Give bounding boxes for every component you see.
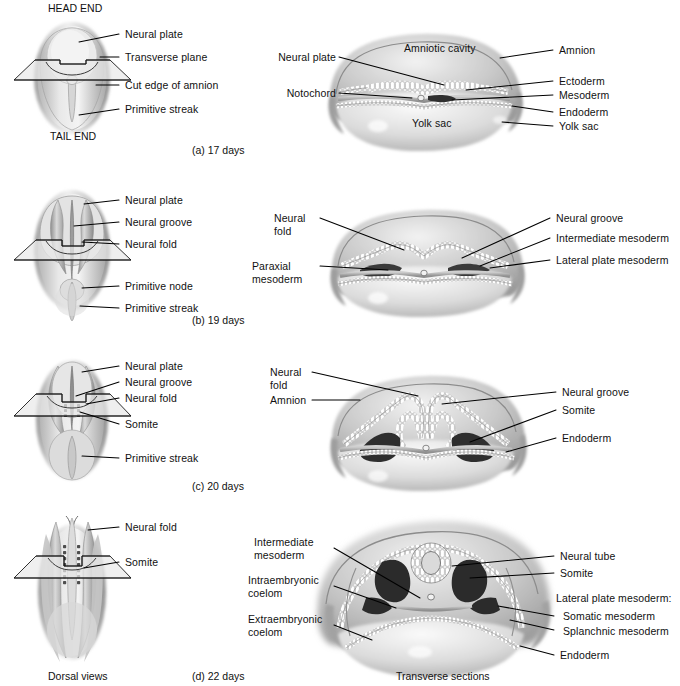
label-d-extraembryonic-coelom: Extraembryonic coelom: [248, 613, 322, 638]
label-d-somatic-mesoderm: Somatic mesoderm: [563, 610, 655, 623]
label-c-section-amnion: Amnion: [270, 394, 306, 407]
embryology-figure: HEAD END TAIL END Neural plate Transvers…: [0, 0, 680, 686]
label-b-neural-plate: Neural plate: [125, 194, 183, 207]
label-a-yolk-sac-inner: Yolk sac: [412, 117, 452, 130]
label-a-yolk-sac-right: Yolk sac: [559, 120, 599, 133]
label-c-somite: Somite: [125, 418, 158, 431]
panel-c-dorsal-view: [14, 360, 131, 480]
figure-artwork: [0, 0, 680, 686]
label-b-neural-fold: Neural fold: [125, 238, 177, 251]
tail-end-label: TAIL END: [50, 130, 96, 143]
column-caption-dorsal-views: Dorsal views: [48, 670, 108, 683]
label-c-neural-groove: Neural groove: [125, 376, 192, 389]
label-b-lateral-plate-mesoderm: Lateral plate mesoderm: [556, 254, 669, 267]
label-d-intraembryonic-coelom: Intraembryonic coelom: [248, 574, 319, 599]
label-d-endoderm: Endoderm: [560, 649, 609, 662]
label-a-section-notochord: Notochord: [216, 87, 336, 100]
label-a-endoderm: Endoderm: [559, 106, 608, 119]
label-c-endoderm: Endoderm: [562, 432, 611, 445]
label-b-section-paraxial-mesoderm: Paraxial mesoderm: [252, 260, 302, 285]
label-d-intermediate-mesoderm: Intermediate mesoderm: [254, 536, 314, 561]
panel-c-transverse-section: [331, 376, 527, 491]
head-end-label: HEAD END: [48, 2, 102, 15]
panel-d-dorsal-view: [14, 516, 131, 662]
label-b-neural-groove: Neural groove: [125, 216, 192, 229]
label-a-primitive-streak: Primitive streak: [125, 103, 198, 116]
label-b-primitive-streak: Primitive streak: [125, 302, 198, 315]
caption-panel-d: (d) 22 days: [192, 670, 245, 683]
label-a-neural-plate: Neural plate: [125, 28, 183, 41]
label-d-somite-section: Somite: [560, 567, 593, 580]
label-a-section-neural-plate: Neural plate: [216, 51, 336, 64]
caption-panel-b: (b) 19 days: [192, 314, 245, 327]
label-a-transverse-plane: Transverse plane: [125, 51, 207, 64]
column-caption-transverse-sections: Transverse sections: [396, 670, 490, 683]
panel-b-dorsal-view: [14, 190, 131, 321]
label-b-intermediate-mesoderm: Intermediate mesoderm: [556, 232, 669, 245]
label-c-section-neural-fold: Neural fold: [270, 366, 302, 391]
label-a-cut-edge-of-amnion: Cut edge of amnion: [125, 79, 218, 92]
label-c-neural-fold: Neural fold: [125, 392, 177, 405]
label-d-neural-fold: Neural fold: [125, 521, 177, 534]
caption-panel-c: (c) 20 days: [192, 480, 244, 493]
label-d-somite: Somite: [125, 556, 158, 569]
panel-d-transverse-section: [318, 522, 550, 677]
label-b-neural-groove-section: Neural groove: [556, 212, 623, 225]
label-b-section-neural-fold: Neural fold: [274, 212, 306, 237]
label-a-ectoderm: Ectoderm: [559, 75, 605, 88]
label-d-neural-tube: Neural tube: [560, 550, 615, 563]
label-a-amniotic-cavity: Amniotic cavity: [404, 42, 476, 55]
label-a-mesoderm: Mesoderm: [559, 89, 609, 102]
label-d-lateral-plate-mesoderm-heading: Lateral plate mesoderm:: [556, 592, 672, 605]
label-c-somite-section: Somite: [562, 404, 595, 417]
label-c-neural-groove-section: Neural groove: [562, 386, 629, 399]
label-c-neural-plate: Neural plate: [125, 360, 183, 373]
label-b-primitive-node: Primitive node: [125, 280, 193, 293]
panel-b-transverse-section: [331, 210, 525, 317]
label-d-splanchnic-mesoderm: Splanchnic mesoderm: [563, 625, 669, 638]
label-a-amnion: Amnion: [559, 44, 595, 57]
label-c-primitive-streak: Primitive streak: [125, 452, 198, 465]
panel-a-dorsal-view: [14, 22, 131, 134]
caption-panel-a: (a) 17 days: [192, 144, 245, 157]
